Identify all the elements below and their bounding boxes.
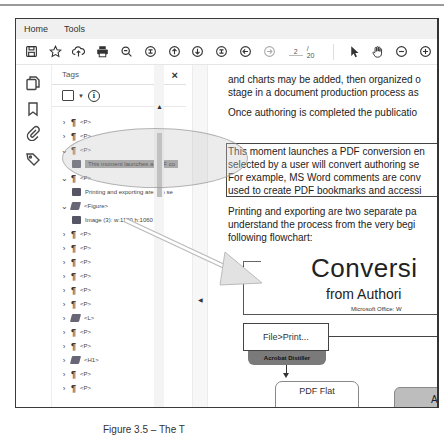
attachments-icon[interactable] (25, 125, 41, 141)
tag-label: <P> (80, 371, 91, 377)
tag-tree-row[interactable]: ›¶<P> (60, 367, 91, 381)
bookmarks-icon[interactable] (25, 101, 41, 117)
chevron-right-icon[interactable]: › (60, 370, 68, 379)
page-number-field[interactable]: 2 / 20 (289, 45, 317, 59)
paragraph-tag-icon: ¶ (71, 257, 76, 267)
tag-tree-row[interactable]: ›¶<P> (60, 115, 91, 129)
collapse-panel-icon[interactable]: ◀ (198, 296, 203, 303)
tag-tree-row[interactable]: ›¶<P> (60, 283, 91, 297)
chevron-right-icon[interactable]: › (60, 384, 68, 393)
tags-icon[interactable] (25, 151, 41, 167)
upload-cloud-icon[interactable] (69, 41, 90, 63)
paragraph-tag-icon: ¶ (71, 117, 76, 127)
tab-bar: Home Tools Chapter_3SampleT... × (16, 19, 439, 39)
save-icon[interactable] (21, 41, 42, 63)
options-menu-icon[interactable] (62, 90, 74, 101)
tag-tree-row[interactable]: ›<H1> (60, 353, 99, 367)
flowchart-acr: ACR (394, 387, 439, 407)
chevron-down-icon[interactable]: ▼ (78, 93, 84, 99)
scroll-up-icon[interactable]: ▲ (156, 103, 163, 110)
tag-tree-row[interactable]: ›¶<P> (60, 269, 91, 283)
tag-label: <P> (80, 231, 91, 237)
tag-label: <L> (84, 315, 94, 321)
tab-tools[interactable]: Tools (56, 19, 93, 39)
panel-splitter[interactable] (192, 65, 208, 407)
print-icon[interactable] (92, 41, 113, 63)
paragraph-tag-icon: ¶ (71, 131, 76, 141)
chevron-right-icon[interactable]: › (60, 132, 68, 141)
tag-tree-row[interactable]: ›¶<P> (60, 241, 91, 255)
window-edge (437, 18, 439, 408)
info-icon[interactable]: i (88, 90, 100, 102)
chevron-right-icon[interactable]: › (60, 258, 68, 267)
chevron-right-icon[interactable]: › (60, 230, 68, 239)
tag-label: <P> (80, 287, 91, 293)
chevron-right-icon[interactable]: › (60, 286, 68, 295)
chevron-right-icon[interactable]: › (60, 356, 68, 365)
zoom-out-search-icon[interactable] (116, 41, 137, 63)
tags-panel: Tags × ▼ i ›¶<P>›¶<P>⌄¶<P>This moment la… (52, 65, 192, 407)
tag-tree-row[interactable]: Image (3): w:1100 h:1060 (72, 213, 153, 227)
paragraph-tag-icon: ¶ (71, 229, 76, 239)
doc-line: stage in a document production process a… (228, 86, 419, 99)
content-item-icon (72, 188, 81, 196)
doc-line: Once authoring is completed the publicat… (228, 106, 417, 119)
doc-line: following flowchart: (228, 231, 312, 244)
chevron-right-icon[interactable]: › (60, 272, 68, 281)
forward-icon[interactable] (259, 41, 280, 63)
pages-icon[interactable] (25, 75, 41, 91)
prev-page-icon[interactable] (164, 41, 185, 63)
select-cursor-icon[interactable] (344, 41, 365, 63)
flowchart-arrowhead (283, 373, 289, 378)
tag-tree-row[interactable]: ›¶<P> (60, 255, 91, 269)
tags-header: Tags × (52, 65, 186, 85)
next-page-icon[interactable] (188, 41, 209, 63)
chevron-right-icon[interactable]: › (60, 314, 68, 323)
paragraph-tag-icon: ¶ (71, 327, 76, 337)
structure-tag-icon (70, 202, 81, 210)
paragraph-tag-icon: ¶ (71, 243, 76, 253)
paragraph-tag-icon: ¶ (71, 369, 76, 379)
tag-tree-row[interactable]: ›¶<P> (60, 381, 91, 395)
flowchart-frame (243, 265, 439, 315)
tab-home[interactable]: Home (16, 19, 56, 39)
close-panel-icon[interactable]: × (172, 69, 178, 81)
tag-label: <Figure> (84, 203, 108, 209)
fit-page-icon[interactable] (140, 41, 161, 63)
hand-tool-icon[interactable] (368, 41, 389, 63)
chevron-right-icon[interactable]: › (60, 118, 68, 127)
tag-tree-row[interactable]: ›<L> (60, 311, 94, 325)
tag-label: Image (3): w:1100 h:1060 (85, 217, 153, 223)
content-item-icon (72, 216, 81, 224)
paragraph-tag-icon: ¶ (71, 285, 76, 295)
flowchart-print-box: File>Print... (243, 323, 329, 351)
bookmark-star-icon[interactable] (45, 41, 66, 63)
tag-tree-row[interactable]: ⌄<Figure> (60, 199, 108, 213)
paragraph-tag-icon: ¶ (71, 173, 76, 183)
tag-label: <P> (80, 385, 91, 391)
chevron-down-icon[interactable]: ⌄ (60, 202, 68, 211)
paragraph-tag-icon: ¶ (71, 341, 76, 351)
doc-line: selected by a user will convert authorin… (228, 158, 419, 171)
back-icon[interactable] (235, 41, 256, 63)
fit-width-icon[interactable] (211, 41, 232, 63)
tag-label: <P> (80, 245, 91, 251)
current-page[interactable]: 2 (289, 48, 303, 56)
tag-tree-row[interactable]: ›¶<P> (60, 297, 91, 311)
chevron-right-icon[interactable]: › (60, 300, 68, 309)
zoom-out-icon[interactable] (391, 41, 412, 63)
tag-tree-row[interactable]: ›¶<P> (60, 227, 91, 241)
chevron-down-icon[interactable]: ⌄ (60, 174, 68, 183)
tree-scrollbar[interactable] (154, 65, 164, 407)
structure-tag-icon (70, 356, 81, 364)
tag-label: <P> (80, 343, 91, 349)
tag-tree-row[interactable]: ›¶<P> (60, 339, 91, 353)
tag-label: <H1> (84, 357, 99, 363)
chevron-right-icon[interactable]: › (60, 342, 68, 351)
tag-tree-row[interactable]: ›¶<P> (60, 325, 91, 339)
tags-title: Tags (62, 70, 79, 79)
chevron-right-icon[interactable]: › (60, 244, 68, 253)
chevron-right-icon[interactable]: › (60, 328, 68, 337)
zoom-in-icon[interactable] (415, 41, 436, 63)
flowchart-connector (329, 336, 439, 337)
